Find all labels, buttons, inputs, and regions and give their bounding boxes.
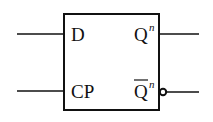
inversion-bubble-icon (160, 89, 166, 95)
d-flip-flop-diagram: D CP Q n Q n (0, 0, 213, 122)
q-output-label: Q (134, 24, 148, 45)
q-output-superscript: n (149, 21, 155, 33)
d-input-label: D (71, 24, 85, 45)
qbar-output-superscript: n (149, 78, 155, 90)
cp-input-label: CP (71, 81, 94, 102)
qbar-output-label: Q (134, 81, 148, 102)
